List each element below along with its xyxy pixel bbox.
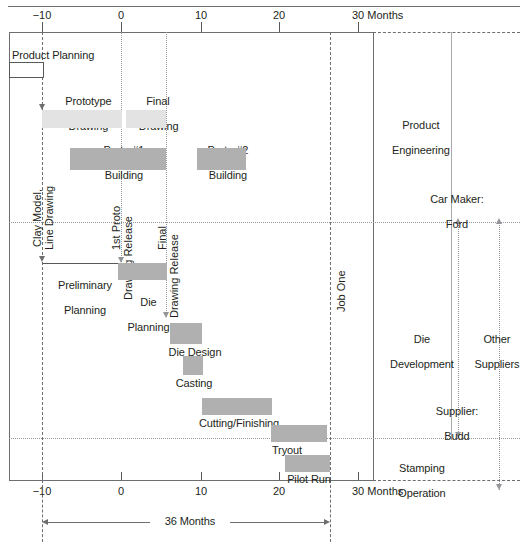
bar-final-drawing (126, 110, 166, 128)
org-label-car-maker-line1: Car Maker: (430, 193, 483, 205)
milestone-arrow-clay-model-bottom (39, 256, 45, 262)
org-label-supplier-budd: Supplier: Budd (415, 392, 487, 455)
top-axis-line (9, 32, 373, 33)
milestone-label-clay-model-line2: Line Drawing (43, 168, 56, 250)
org-label-other-suppliers-line2: Suppliers (474, 358, 519, 370)
top-axis-dashed-extension (373, 32, 520, 33)
bar-label-pilot-run: Pilot Run (283, 473, 335, 486)
bar-proto2-building (197, 148, 246, 170)
bottom-axis-tick-0: 0 (101, 485, 141, 497)
bar-die-design (170, 323, 202, 344)
top-axis-tick--10: −10 (22, 9, 62, 21)
guide-line-clay-model-below-axis (42, 480, 43, 542)
bottom-tickmark-20 (279, 472, 280, 480)
org-label-car-maker-ford: Car Maker: Ford (411, 180, 491, 243)
guide-line-job-one (330, 32, 331, 480)
bar-label-final-drawing-line1: Final (146, 95, 169, 107)
org-label-supplier-budd-line1: Supplier: (436, 405, 479, 417)
bar-casting (183, 356, 203, 375)
bar-label-cutting-finishing: Cutting/Finishing (196, 417, 282, 430)
bar-tryout (271, 425, 327, 442)
phase-label-die-development-line1: Die (414, 333, 430, 345)
phase-label-product-engineering-line1: Product (402, 119, 439, 131)
phase-label-stamping-operation: Stamping Operation (378, 449, 454, 512)
bar-label-proto1-line2: Building (105, 169, 143, 181)
org-label-car-maker-line2: Ford (446, 218, 468, 230)
milestone-label-clay-model-line1: Clay Model, (31, 167, 44, 247)
bar-label-die-planning: Die Planning (110, 283, 175, 346)
chart-right-border (373, 32, 374, 480)
top-axis-tick-30: 30 Months (352, 9, 422, 21)
span-36-months-arrow-right (324, 519, 330, 525)
bar-label-die-planning-line2: Planning (127, 321, 169, 333)
bar-label-proto2-line2: Building (209, 169, 247, 181)
phase-label-die-development: Die Development (378, 320, 454, 383)
top-tickmark-20 (279, 22, 280, 32)
guide-line-job-one-below-axis (330, 480, 331, 542)
span-other-suppliers-arrow-top (496, 218, 502, 224)
chart-left-border (9, 32, 10, 480)
top-tickmark-10 (201, 22, 202, 32)
span-36-months-arrow-left (42, 519, 48, 525)
bottom-tickmark-0 (121, 472, 122, 480)
phase-label-product-engineering: Product Engineering (379, 106, 451, 169)
bar-label-product-planning: Product Planning (12, 49, 122, 62)
phase-label-stamping-line1: Stamping (399, 462, 445, 474)
top-tickmark-0 (121, 22, 122, 32)
top-axis-tick-10: 10 (181, 9, 221, 21)
top-tickmark--10 (42, 22, 43, 32)
bottom-axis-tick-10: 10 (181, 485, 221, 497)
bottom-axis-tick-20: 20 (259, 485, 299, 497)
bar-label-preliminary-line1: Preliminary (58, 279, 112, 291)
bar-label-preliminary-line2: Planning (64, 304, 106, 316)
top-axis-tick-0: 0 (101, 9, 141, 21)
top-axis-tick-20: 20 (259, 9, 299, 21)
bar-cutting-finishing (202, 398, 272, 415)
bar-label-casting: Casting (170, 377, 218, 390)
org-label-other-suppliers: Other Suppliers (456, 320, 526, 383)
gantt-chart-figure: −10 0 10 20 30 Months −10 0 10 20 30 Mon… (0, 0, 528, 548)
milestone-arrow-clay-model-top (39, 104, 45, 110)
span-other-suppliers-arrow-bottom (496, 484, 502, 490)
span-36-months-label: 36 Months (150, 515, 230, 528)
phase-label-stamping-line2: Operation (398, 487, 445, 499)
bottom-tickmark-30 (358, 472, 359, 480)
milestone-label-job-one: Job One (335, 252, 348, 312)
bar-preliminary-planning-topline (42, 263, 118, 264)
bar-pilot-run (285, 455, 330, 472)
bar-label-die-planning-line1: Die (140, 296, 156, 308)
org-label-other-suppliers-line1: Other (483, 333, 510, 345)
milestone-label-final-release-line1: Final (156, 180, 169, 250)
page-top-rule (8, 6, 520, 7)
top-tickmark-30 (358, 22, 359, 32)
bottom-tickmark-10 (201, 472, 202, 480)
bar-label-prototype-drawing-line1: Prototype (65, 95, 111, 107)
bar-product-planning (9, 62, 44, 78)
phase-label-product-engineering-line2: Engineering (392, 144, 450, 156)
bar-proto1-building (70, 148, 166, 170)
org-label-supplier-budd-line2: Budd (444, 430, 469, 442)
milestone-label-first-proto-line1: 1st Proto (110, 180, 123, 250)
phase-label-die-development-line2: Development (390, 358, 454, 370)
bar-label-preliminary-planning: Preliminary Planning (40, 266, 118, 329)
bar-die-planning (118, 263, 167, 280)
bar-prototype-drawing (42, 110, 122, 128)
